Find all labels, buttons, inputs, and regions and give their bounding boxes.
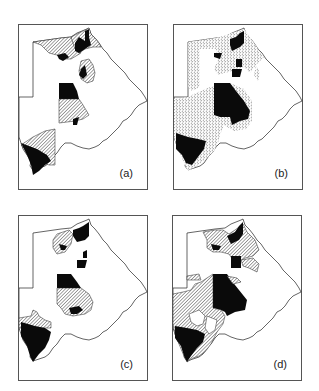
panel-label-a: (a) (120, 167, 133, 179)
panel-label-b: (b) (275, 167, 288, 179)
panel-label-d: (d) (274, 358, 287, 370)
map-panel-d: (d) (172, 215, 302, 381)
panel-label-c: (c) (120, 358, 133, 370)
map-panel-c: (c) (18, 215, 148, 381)
map-panel-a: (a) (18, 24, 148, 190)
map-panel-b: (b) (173, 24, 303, 190)
